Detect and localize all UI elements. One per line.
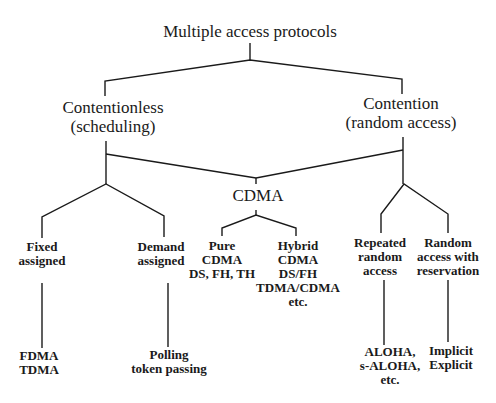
node-polling-token-passing: Polling token passing <box>131 348 207 376</box>
node-pure-cdma: Pure CDMA DS, FH, TH <box>189 239 255 281</box>
node-cdma: CDMA <box>232 186 283 205</box>
node-fdma-tdma: FDMA TDMA <box>19 349 59 377</box>
node-contentionless: Contentionless (scheduling) <box>62 98 163 136</box>
node-contention: Contention (random access) <box>346 94 457 132</box>
node-implicit-explicit: Implicit Explicit <box>429 344 473 372</box>
node-fixed-assigned: Fixed assigned <box>19 240 66 268</box>
node-repeated-random-access: Repeated random access <box>354 236 406 278</box>
node-multiple-access-protocols: Multiple access protocols <box>163 22 337 41</box>
node-hybrid-cdma: Hybrid CDMA DS/FH TDMA/CDMA etc. <box>256 239 340 309</box>
node-random-access-with-reservation: Random access with reservation <box>417 236 480 278</box>
node-aloha: ALOHA, s-ALOHA, etc. <box>360 345 420 387</box>
node-demand-assigned: Demand assigned <box>138 240 185 268</box>
